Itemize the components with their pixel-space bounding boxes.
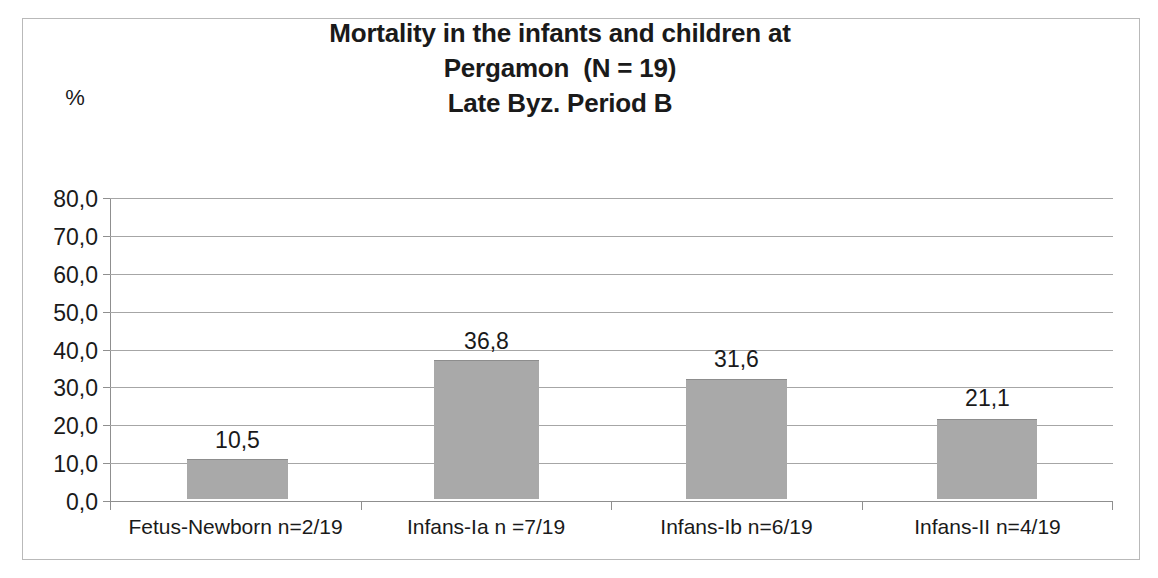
y-tick-label: 50,0 (14, 302, 98, 325)
gridline (110, 350, 1113, 351)
x-axis-label-infans-ib: Infans-Ib n=6/19 (611, 516, 862, 537)
y-tick-label: 80,0 (14, 188, 98, 211)
x-axis-label-fetus-newborn: Fetus-Newborn n=2/19 (110, 516, 361, 537)
y-tick-label: 60,0 (14, 264, 98, 287)
x-axis-tick (611, 501, 612, 510)
y-tick-label: 40,0 (14, 340, 98, 363)
chart-title-line-1: Mortality in the infants and children at (140, 16, 980, 51)
bar-value-label: 36,8 (416, 330, 557, 353)
x-axis-label-infans-ia: Infans-Ia n =7/19 (361, 516, 611, 537)
chart-figure: Mortality in the infants and children at… (0, 0, 1158, 578)
bar-value-label: 21,1 (917, 387, 1058, 410)
x-axis-label-infans-ii: Infans-II n=4/19 (862, 516, 1113, 537)
bar-fetus-newborn[interactable] (187, 459, 288, 499)
y-axis-tick-labels: 80,0 70,0 60,0 50,0 40,0 30,0 20,0 10,0 … (0, 0, 98, 578)
x-axis-tick (1112, 501, 1113, 510)
bar-value-label: 10,5 (167, 429, 308, 452)
bar-value-label: 31,6 (666, 348, 807, 371)
plot-area (110, 198, 1113, 501)
chart-title-line-2: Pergamon (N = 19) (140, 51, 980, 86)
y-tick-label: 70,0 (14, 226, 98, 249)
gridline (110, 236, 1113, 237)
y-tick-label: 0,0 (14, 491, 98, 514)
chart-title: Mortality in the infants and children at… (140, 16, 980, 121)
y-tick-label: 30,0 (14, 377, 98, 400)
x-axis-tick (361, 501, 362, 510)
y-tick-label: 10,0 (14, 453, 98, 476)
x-axis-tick (110, 501, 111, 510)
gridline (110, 198, 1113, 199)
bar-infans-ib[interactable] (686, 379, 787, 499)
bar-infans-ii[interactable] (937, 419, 1037, 499)
gridline (110, 312, 1113, 313)
bar-infans-ia[interactable] (434, 360, 539, 499)
y-tick-label: 20,0 (14, 415, 98, 438)
x-axis-tick (862, 501, 863, 510)
chart-title-line-3: Late Byz. Period B (140, 86, 980, 121)
gridline (110, 274, 1113, 275)
